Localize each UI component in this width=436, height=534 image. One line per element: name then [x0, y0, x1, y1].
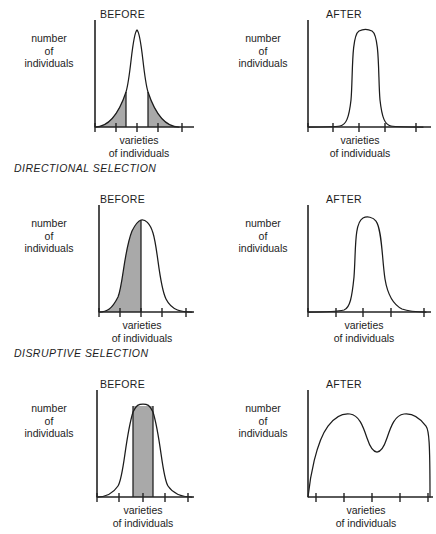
- chart-panel-disruptive-before: BEFORE number of individuals varieties o…: [4, 378, 200, 534]
- x-axis-label: varieties of individuals: [321, 319, 407, 344]
- x-axis-label: varieties of individuals: [96, 134, 182, 159]
- x-axis-label-line-1: varieties: [317, 134, 403, 147]
- x-axis-label-line-2: of individuals: [317, 147, 403, 160]
- chart-panel-stabilizing-before: BEFORE number of individuals var: [4, 8, 200, 168]
- x-axis-label: varieties of individuals: [323, 504, 409, 529]
- x-axis-label-line-2: of individuals: [100, 517, 186, 530]
- x-axis-label-line-2: of individuals: [99, 332, 185, 345]
- x-axis-label-line-1: varieties: [96, 134, 182, 147]
- chart-panel-disruptive-after: AFTER number of individuals varieties of…: [226, 378, 422, 534]
- x-axis-label-line-1: varieties: [100, 504, 186, 517]
- x-axis-label-line-2: of individuals: [321, 332, 407, 345]
- x-axis-label-line-1: varieties: [321, 319, 407, 332]
- shaded-region-high-tail: [148, 92, 179, 127]
- x-axis-label-line-1: varieties: [99, 319, 185, 332]
- chart-panel-directional-after: AFTER number of individuals varieties of…: [226, 193, 422, 353]
- distribution-curve: [95, 30, 179, 127]
- x-axis-label-line-2: of individuals: [96, 147, 182, 160]
- shaded-region-low-half: [99, 220, 141, 312]
- x-axis-label: varieties of individuals: [99, 319, 185, 344]
- shaded-region-low-tail: [95, 92, 126, 127]
- x-axis-label-line-2: of individuals: [323, 517, 409, 530]
- distribution-curve: [99, 220, 192, 312]
- chart-panel-directional-before: BEFORE number of individuals varieties o…: [4, 193, 200, 353]
- distribution-curve: [308, 217, 426, 312]
- distribution-curve: [308, 30, 423, 128]
- selection-types-figure: DIRECTIONAL SELECTION DISRUPTIVE SELECTI…: [0, 0, 436, 534]
- shaded-region-intermediate: [133, 406, 153, 497]
- distribution-curve: [308, 414, 430, 497]
- x-axis-label: varieties of individuals: [100, 504, 186, 529]
- x-axis-label: varieties of individuals: [317, 134, 403, 159]
- chart-panel-stabilizing-after: AFTER number of individuals varieties of…: [226, 8, 422, 168]
- x-axis-label-line-1: varieties: [323, 504, 409, 517]
